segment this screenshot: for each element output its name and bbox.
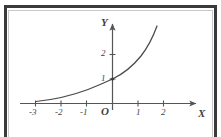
origin-label: O xyxy=(101,106,109,117)
x-tick-label-minus3: -3 xyxy=(29,108,37,117)
x-tick-label-2: 2 xyxy=(161,108,166,117)
x-tick-label-minus2: -2 xyxy=(55,108,63,117)
intersection-point-0-1 xyxy=(111,78,114,81)
y-axis-label: Y xyxy=(101,17,108,28)
y-tick-label-2: 2 xyxy=(101,49,106,58)
x-tick-label-minus1: -1 xyxy=(80,108,88,117)
y-tick-label-1: 1 xyxy=(101,74,106,83)
graph-figure: -3 -2 -1 1 2 1 2 O X Y xyxy=(0,0,221,137)
exponential-curve xyxy=(36,26,157,102)
x-axis-label: X xyxy=(198,108,205,119)
x-tick-label-1: 1 xyxy=(136,108,141,117)
